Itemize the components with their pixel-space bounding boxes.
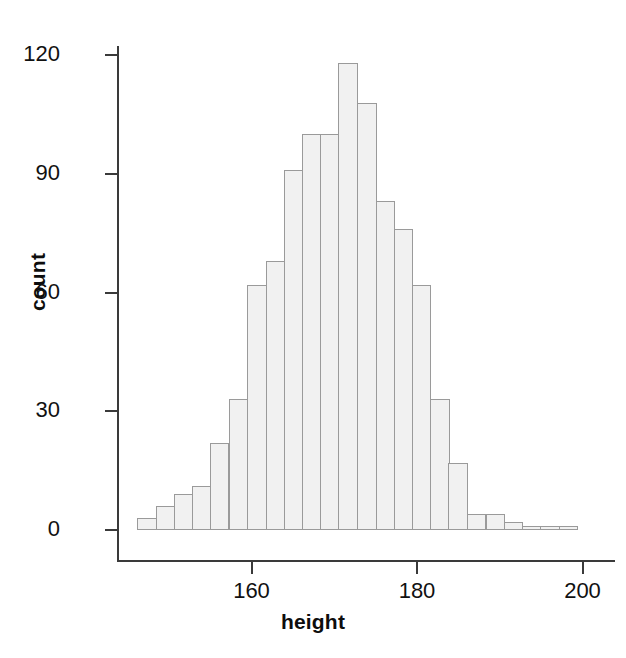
histogram-bar — [320, 134, 339, 530]
histogram-bar — [156, 506, 175, 530]
histogram-bar — [266, 261, 285, 530]
histogram-bar — [412, 285, 431, 530]
histogram-bar — [467, 514, 486, 530]
histogram-bar — [210, 443, 229, 530]
histogram-bar — [137, 518, 156, 530]
histogram-bar — [357, 103, 376, 531]
histogram-bar — [540, 526, 559, 530]
histogram-bar — [522, 526, 541, 530]
histogram-bar — [430, 399, 449, 530]
histogram-bar — [338, 63, 357, 530]
histogram-bar — [559, 526, 578, 530]
histogram-bar — [376, 201, 395, 530]
histogram-bar — [504, 522, 523, 530]
histogram-bar — [229, 399, 248, 530]
histogram-bar — [486, 514, 505, 530]
histogram-bar — [302, 134, 321, 530]
histogram-bar — [448, 463, 467, 530]
histogram-bar — [284, 170, 303, 530]
histogram-figure: count height 0306090120 160180200 — [0, 0, 626, 658]
histogram-bar — [174, 494, 193, 530]
histogram-bar — [394, 229, 413, 530]
histogram-bar — [192, 486, 211, 530]
histogram-bar — [247, 285, 266, 530]
histogram-bars — [0, 0, 626, 658]
